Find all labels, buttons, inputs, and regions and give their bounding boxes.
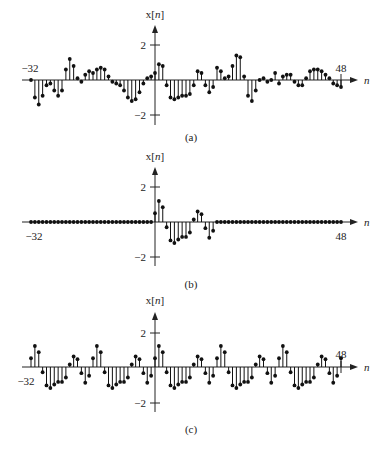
tick-label-2: 2 [141,327,147,339]
stem-dot [184,380,188,384]
stem-dot [227,220,231,224]
stem-dot [339,356,343,360]
stem-dot [141,220,145,224]
stem-dot [269,78,273,82]
stem-dot [246,380,250,384]
stem-dot [184,94,188,98]
stem-dot [153,71,157,75]
stem-dot [265,220,269,224]
stem-dot [172,97,176,101]
stem-dot [262,220,266,224]
stem-dot [145,76,149,80]
stem-dot [72,355,76,359]
stem-dot [99,66,103,70]
stem-dot [242,75,246,79]
stem-dot [265,80,269,84]
stem-dot [176,383,180,387]
stem-dot [281,344,285,348]
stem-dot [48,386,52,390]
stem-dot [141,82,145,86]
stem-dot [48,82,52,86]
figure: 2 −2 x[n] n −32 48 (a) 2 −2 x[n] n −32 4… [0,0,383,450]
stem-dot [110,386,114,390]
stem-dot [335,220,339,224]
stem-dot [196,355,200,359]
stem-dot [72,64,76,68]
stem-dot [153,356,157,360]
stem-dot [110,80,114,84]
x-axis-label: n [364,361,370,373]
stem-dot [130,99,134,103]
stem-dot [296,220,300,224]
stem-dot [134,220,138,224]
stem-dot [308,69,312,73]
stem-dot [335,83,339,87]
stem-dot [165,225,169,229]
caption-b: (b) [185,278,198,291]
y-axis-arrow-icon [152,25,158,33]
y-axis-arrow-icon [152,167,158,175]
stem-dot [122,380,126,384]
stem-dot [296,83,300,87]
stem-dot [56,220,60,224]
stem-dot [335,374,339,378]
stem-dot [262,76,266,80]
stem-dot [87,69,91,73]
stem-dot [29,220,33,224]
stem-dot [130,220,134,224]
stem-dot [118,380,122,384]
tick-label-neg2: −2 [134,397,146,409]
panel-b: 2 −2 x[n] n −32 48 (b) [22,150,370,291]
stem-dot [134,355,138,359]
stem-dot [52,89,56,93]
stem-dot [149,220,153,224]
stem-dot [45,83,49,87]
stem-dot [300,383,304,387]
left-label: −32 [21,62,38,74]
right-label: 48 [336,62,348,74]
stem-dot [83,220,87,224]
stem-dot [250,99,254,103]
stem-dot [169,96,173,100]
stem-dot [223,350,227,354]
stem-dot [176,96,180,100]
stem-dot [258,78,262,82]
stem-dot [231,220,235,224]
left-label: −32 [25,230,42,242]
stem-dot [149,374,153,378]
stem-dot [114,383,118,387]
stem-dot [285,73,289,77]
stem-dot [37,220,41,224]
stem-dot [192,217,196,221]
stem-dot [215,356,219,360]
stem-dot [161,350,165,354]
stem-dot [29,356,33,360]
stem-dot [52,383,56,387]
stem-dot [33,220,37,224]
stem-dot [258,220,262,224]
stem-dot [145,381,149,385]
stem-dot [60,89,64,93]
stem-dot [234,220,238,224]
stem-dot [64,220,68,224]
stem-dot [29,78,33,82]
stem-dot [103,370,107,374]
stem-dot [165,83,169,87]
x-axis-label: n [364,216,370,228]
stem-dot [258,355,262,359]
right-label: 48 [336,230,348,242]
stem-dot [246,94,250,98]
stem-dot [33,344,37,348]
x-axis-label: n [364,74,370,86]
stem-dot [273,71,277,75]
stem-dot [219,69,223,73]
stem-dot [327,76,331,80]
stem-dot [331,82,335,86]
stem-dot [277,220,281,224]
stem-dot [324,73,328,77]
stem-dot [76,76,80,80]
stem-dot [134,97,138,101]
stem-dot [223,220,227,224]
stem-dot [211,229,215,233]
stem-dot [138,90,142,94]
